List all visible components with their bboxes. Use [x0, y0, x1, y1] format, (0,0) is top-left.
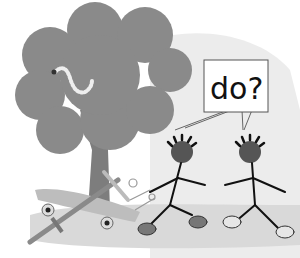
worm-head — [52, 70, 57, 75]
illustration-scene: do? — [0, 0, 300, 258]
speech-bubble-text: do? — [210, 71, 263, 106]
illustration-canvas: do? — [0, 0, 300, 258]
